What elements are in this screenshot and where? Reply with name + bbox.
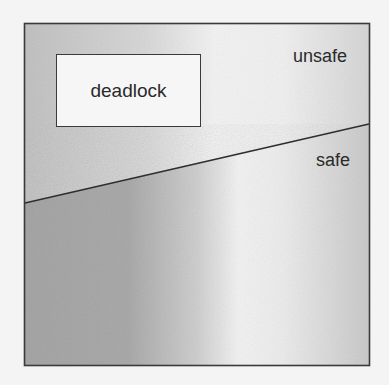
deadlock-label: deadlock xyxy=(90,81,166,100)
safe-label: safe xyxy=(316,151,350,169)
deadlock-region: deadlock xyxy=(56,54,201,127)
unsafe-label: unsafe xyxy=(293,47,347,65)
